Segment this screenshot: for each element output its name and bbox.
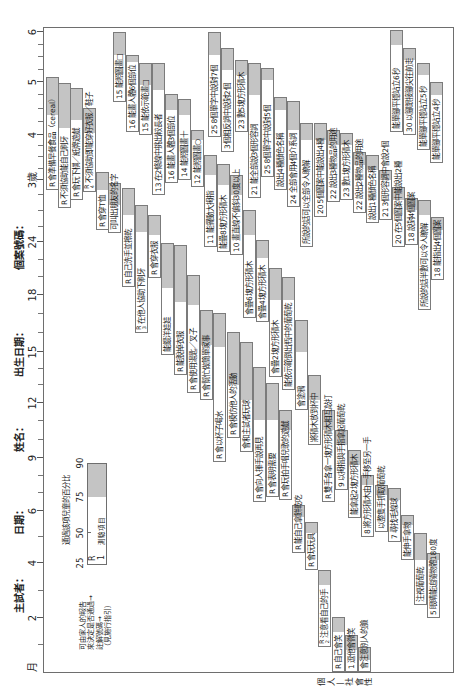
legend-percent-caption: 通過該項兒童的百分比 — [62, 475, 71, 545]
test-item-label: 能單腳平穩站立5秒 — [418, 86, 429, 147]
test-item-label: 以整隻手抓取葡萄乾 — [376, 466, 387, 529]
test-item-bar: 16能畫人體6個部位 — [126, 55, 139, 132]
percentile-75-90-shade — [153, 64, 164, 90]
test-item-text: 能照圖畫十 — [179, 131, 190, 166]
test-item-label: 30以腳跟接腳尖往前走 — [404, 58, 415, 132]
legend-shade-75-90 — [88, 464, 106, 497]
report-mark: R — [293, 545, 304, 550]
footnote-number: 7 — [389, 534, 400, 539]
footnote-number: 16 — [127, 119, 138, 129]
test-item-bar: 說出4種顏色名稱 — [274, 97, 287, 190]
test-item-label: 21能全部說3個形容詞 — [249, 124, 260, 195]
test-item-bar: 11能擺動大拇指 — [204, 155, 217, 247]
report-mark: R — [306, 562, 317, 567]
footnote-number: 11 — [205, 234, 216, 244]
test-item-text: 不須協助能自己刷牙 — [59, 136, 70, 199]
test-item-text: 能單腳平穩站立6秒 — [391, 68, 402, 129]
report-mark: R — [71, 192, 82, 197]
report-mark: R — [254, 494, 265, 499]
test-item-bar: R會模仿他人的活動 — [227, 332, 240, 438]
test-item-label: R會玩玩具 — [306, 533, 317, 567]
report-mark: R — [280, 492, 291, 497]
test-item-bar: R會玩拍手唱兒歌的遊戲 — [279, 410, 292, 500]
test-item-text: 8個單字中說對5個 — [262, 105, 273, 164]
test-item-label: 258個單字中說對7個 — [209, 65, 220, 134]
test-item-text: 會注意別人的臉 — [359, 620, 370, 669]
test-item-bar: 22說出3種物品的用途 — [327, 130, 340, 202]
report-mark: R — [59, 200, 70, 205]
footnote-number: 25 — [262, 164, 273, 174]
test-item-label: R能脫掉衣服 — [175, 331, 186, 372]
test-item-bar: 24全部會用4個介系詞 — [287, 101, 300, 207]
test-item-text: 5個圖案中能說出4種 — [315, 138, 326, 204]
percentile-75-90-shade — [205, 156, 216, 175]
test-item-label: R會使用湯匙／叉子 — [188, 328, 199, 390]
percentile-75-90-shade — [71, 89, 82, 120]
test-item-text: 能擺動大拇指 — [205, 191, 216, 233]
test-item-label: 能伸手拿物 — [402, 522, 413, 557]
test-item-label: 8將方形積木由一手移至另一手 — [362, 437, 373, 534]
legend-sample-bar: R 1 測驗項目 — [87, 463, 107, 565]
test-item-bar: 13在2條線中挑出較長者 — [152, 63, 165, 195]
footnote-number: 16 — [166, 170, 177, 180]
test-item-label: 1逗他會微笑 — [346, 628, 357, 669]
test-item-bar: 23數1塊方形積木 — [340, 133, 353, 200]
footnote-number: 18 — [432, 267, 443, 277]
test-item-text: 以整隻手抓取葡萄乾 — [376, 466, 387, 529]
percentile-75-90-shade — [241, 343, 252, 400]
test-item-bar: 7尋找毛線球 — [388, 488, 401, 542]
test-item-text: 會模仿他人的活動 — [228, 373, 239, 429]
test-item-bar: R3在他人協助下刷牙 — [135, 205, 148, 333]
legend-explanation-line: 來決定是否通過→ — [87, 595, 95, 650]
report-mark-with-footnote: R3 — [136, 325, 147, 330]
test-item-bar: R會穿衣服 — [148, 215, 161, 278]
test-item-bar: 會疊2塊方形積木 — [269, 268, 282, 377]
test-item-bar: R雙手各拿一塊方形積木相互敲打 — [322, 410, 335, 502]
test-item-bar: 能單腳平穩站立5秒 — [417, 63, 430, 150]
test-item-bar: 以整隻手抓取葡萄乾 — [375, 485, 388, 532]
footnote-number: 25 — [209, 124, 220, 134]
test-item-bar: 會塗鴉 — [295, 320, 308, 410]
test-item-bar: 可叫出朋友的名字 — [108, 183, 121, 233]
test-item-label: 14能照圖畫十 — [179, 131, 190, 177]
test-item-label: R會幫忙做簡單家事 — [201, 335, 212, 397]
percentile-75-90-shade — [270, 269, 281, 300]
percentile-75-90-shade — [249, 64, 260, 95]
test-item-text: 將積木放到杯中 — [309, 393, 320, 442]
test-item-label: 注視葡萄乾 — [415, 567, 426, 602]
test-item-label: R會穿T恤 — [97, 195, 108, 227]
legend-percent-90: 90 — [75, 455, 85, 471]
test-item-label: 將積木放到杯中 — [309, 393, 320, 442]
percentile-75-90-shade — [162, 244, 173, 288]
footnote-number: 1 — [346, 664, 357, 669]
test-item-label: 9以拇指與手指拿起葡萄乾 — [336, 404, 347, 487]
footnote-number: 4 — [90, 185, 95, 188]
test-item-bar: R會玩下棋／紙牌遊戲 — [70, 88, 83, 200]
test-item-text: 說出1種顏色名稱 — [367, 166, 378, 220]
test-item-label: 23數5塊方形積木 — [236, 72, 247, 129]
test-item-bar: 22說出2種物品的用途 — [353, 152, 366, 213]
percentile-75-90-shade — [301, 124, 312, 140]
legend-item-label: 測驗項目 — [98, 517, 106, 545]
test-item-label: R雙手各拿一塊方形積木相互敲打 — [323, 395, 334, 499]
percentile-75-90-shade — [136, 206, 147, 232]
footnote-number: 14 — [179, 167, 190, 177]
test-item-label: 能餵洋娃娃 — [162, 317, 173, 352]
age-axis-label: 3歲 — [27, 165, 38, 195]
test-item-text: 雙手各拿一塊方形積木相互敲打 — [323, 395, 334, 493]
percentile-75-90-shade — [288, 102, 299, 130]
scanned-denver-chart-page: 主試者： 日期： 姓名： 出生日期： 個案號碼： 月2469121518243歲… — [0, 0, 469, 700]
footnote-number: 22 — [328, 189, 339, 199]
test-item-label: R自己會笑 — [333, 635, 344, 669]
percentile-75-90-shade — [209, 33, 220, 55]
report-mark: R — [323, 494, 334, 499]
test-item-text: 能單腳平穩站立5秒 — [418, 86, 429, 147]
test-item-label: R會以杯子喝水 — [214, 411, 225, 459]
footnote-number: 21 — [249, 185, 260, 195]
test-item-text: 會玩玩具 — [306, 533, 317, 561]
test-item-text: 不須協助即能穿好衣服／鞋子 — [84, 92, 95, 183]
test-item-text: 會疊4塊方形積木 — [257, 265, 268, 319]
test-item-text: 以拇指與手指拿起葡萄乾 — [336, 404, 347, 481]
test-item-bar: 18說對4個圖案 — [405, 198, 418, 245]
legend-percent-75: 75 — [75, 489, 85, 505]
